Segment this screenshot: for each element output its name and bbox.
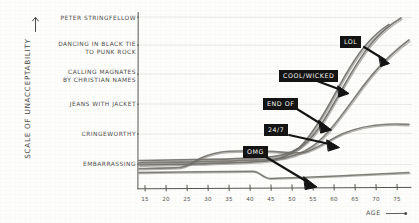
y-label-embarrassing: EMBARRASSING bbox=[83, 160, 136, 168]
x-tick-65: 65 bbox=[351, 196, 359, 202]
x-tick-60: 60 bbox=[330, 196, 338, 202]
y-label-calling-magnates: CALLING MAGNATES BY CHRISTIAN NAMES bbox=[63, 68, 136, 84]
callout-omg[interactable]: OMG bbox=[243, 146, 268, 158]
y-axis-title: SCALE OF UNACCEPTABILITY bbox=[23, 9, 32, 189]
chart-page: SCALE OF UNACCEPTABILITY PETER STRINGFEL… bbox=[0, 0, 419, 223]
x-tick-45: 45 bbox=[267, 196, 275, 202]
x-tick-55: 55 bbox=[309, 196, 317, 202]
x-axis-arrow-icon bbox=[386, 210, 408, 217]
x-axis-title-text: AGE bbox=[366, 209, 381, 216]
x-axis-title: AGE bbox=[366, 209, 408, 217]
y-axis-spine bbox=[137, 12, 138, 189]
y-label-jeans-with-jacket: JEANS WITH JACKET bbox=[70, 100, 136, 108]
x-tick-20: 20 bbox=[162, 196, 170, 202]
x-tick-50: 50 bbox=[288, 196, 296, 202]
x-axis-tick-labels: 15 20 25 30 35 40 45 50 55 60 65 70 75 bbox=[137, 196, 417, 210]
x-tick-15: 15 bbox=[141, 196, 149, 202]
x-tick-40: 40 bbox=[246, 196, 254, 202]
callout-24-7[interactable]: 24/7 bbox=[264, 124, 288, 136]
y-label-cringeworthy: CRINGEWORTHY bbox=[82, 130, 136, 138]
y-label-peter-stringfellow: PETER STRINGFELLOW bbox=[60, 14, 136, 22]
y-axis-category-labels: PETER STRINGFELLOW DANCING IN BLACK TIE … bbox=[34, 0, 136, 223]
x-tick-30: 30 bbox=[204, 196, 212, 202]
y-label-dancing-black-tie: DANCING IN BLACK TIE TO PUNK ROCK bbox=[58, 40, 136, 56]
callout-lol[interactable]: LOL bbox=[340, 36, 361, 48]
callout-end-of[interactable]: END OF bbox=[263, 98, 298, 110]
callout-cool-wicked[interactable]: COOL/WICKED bbox=[279, 70, 338, 82]
x-tick-35: 35 bbox=[225, 196, 233, 202]
curve-omg bbox=[139, 171, 410, 179]
x-axis-spine bbox=[137, 184, 411, 191]
x-tick-25: 25 bbox=[183, 196, 191, 202]
x-tick-75: 75 bbox=[393, 196, 401, 202]
x-tick-70: 70 bbox=[372, 196, 380, 202]
